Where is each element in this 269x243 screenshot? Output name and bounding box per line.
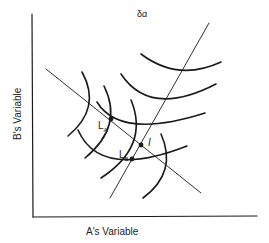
- point-lb: [130, 157, 135, 162]
- point-i: [139, 143, 144, 148]
- b-curve-3: [97, 102, 205, 124]
- label-i: I: [148, 137, 151, 148]
- a-curve-4: [143, 134, 167, 198]
- a-curve-3: [101, 100, 136, 178]
- label-la: LA: [98, 120, 108, 133]
- y-axis: [32, 14, 33, 217]
- x-axis: [33, 216, 257, 217]
- y-axis-label: B's Variable: [12, 88, 23, 140]
- diagram-title: δα: [137, 9, 147, 19]
- point-la: [109, 117, 114, 122]
- label-lb: LB: [119, 149, 129, 162]
- a-curve-1: [68, 72, 89, 136]
- x-axis-label: A's Variable: [86, 226, 138, 237]
- b-curve-1: [141, 54, 221, 70]
- diagram-canvas: [0, 0, 269, 243]
- upward-sloping-line: [110, 23, 209, 198]
